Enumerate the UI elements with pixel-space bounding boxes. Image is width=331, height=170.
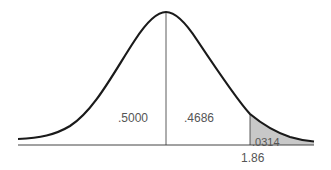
- left-area-label: .5000: [118, 111, 148, 125]
- middle-area-label: .4686: [184, 111, 214, 125]
- z-value-label: 1.86: [241, 151, 264, 165]
- normal-curve-chart: [0, 0, 331, 170]
- tail-area-label: .0314: [252, 136, 280, 148]
